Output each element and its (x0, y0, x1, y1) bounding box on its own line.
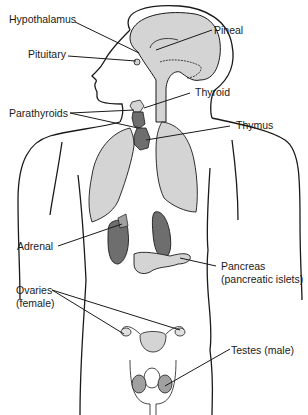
leader-ovaries-1 (52, 290, 124, 334)
label-thyroid: Thyroid (195, 86, 230, 98)
label-thymus: Thymus (236, 119, 273, 131)
leader-pituitary (68, 56, 136, 61)
leader-thyroid (144, 93, 190, 108)
label-hypothalamus: Hypothalamus (9, 13, 76, 25)
testis-right (158, 375, 172, 393)
label-testes: Testes (male) (231, 344, 294, 356)
ovary-left (121, 328, 131, 336)
label-pineal: Pineal (214, 24, 243, 36)
label-pancreas: Pancreas (221, 260, 265, 272)
leader-testes (165, 349, 230, 386)
penis (144, 368, 160, 388)
label-pancreas-sub: (pancreatic islets) (221, 273, 303, 285)
lung-left (89, 128, 134, 222)
label-ovaries: Ovaries (16, 284, 52, 296)
label-parathyroids: Parathyroids (9, 107, 68, 119)
kidney-right (152, 212, 170, 258)
label-ovaries-sub: (female) (16, 297, 55, 309)
label-adrenal: Adrenal (17, 240, 53, 252)
thymus-gland (134, 128, 150, 150)
adrenal-gland-left (118, 214, 128, 228)
lung-right (156, 122, 197, 212)
label-pituitary: Pituitary (28, 48, 66, 60)
uterus (140, 332, 166, 353)
leader-parathyroids-1 (70, 110, 134, 113)
pancreas (134, 252, 190, 273)
parathyroid-glands (132, 112, 145, 128)
testis-left (132, 375, 146, 393)
pituitary-gland (134, 59, 140, 65)
leader-ovaries-2 (52, 290, 180, 330)
